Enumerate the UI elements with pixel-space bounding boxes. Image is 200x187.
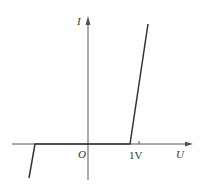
origin-label: O	[78, 149, 86, 160]
diagram-graphics	[0, 0, 200, 187]
tick-label-1v: 1V	[129, 150, 142, 161]
y-axis-label: I	[77, 16, 81, 27]
iu-characteristic-diagram: I O 1V U	[0, 0, 200, 187]
y-axis-arrow-icon	[86, 16, 91, 25]
x-axis-label: U	[176, 149, 184, 160]
x-axis-arrow-icon	[185, 142, 193, 147]
